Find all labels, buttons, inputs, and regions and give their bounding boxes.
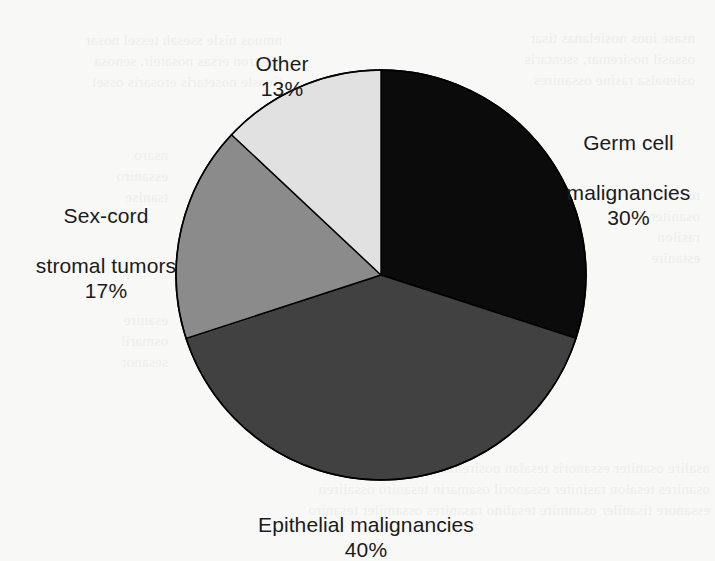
pie-label-other: Other 13%	[222, 26, 342, 126]
pie-label-sex-cord: Sex-cord stromal tumors 17%	[18, 178, 194, 328]
pie-slice-group	[176, 70, 586, 480]
pie-label-other-percent: 13%	[222, 76, 342, 101]
pie-label-germ-cell-name-line2: malignancies	[567, 181, 691, 204]
pie-label-sex-cord-name-line2: stromal tumors	[36, 254, 176, 277]
pie-label-germ-cell: Germ cell malignancies 30%	[546, 105, 711, 255]
pie-label-sex-cord-percent: 17%	[18, 278, 194, 303]
pie-label-epithelial-percent: 40%	[232, 537, 500, 561]
pie-label-germ-cell-name-line1: Germ cell	[583, 131, 674, 154]
pie-label-epithelial-name: Epithelial malignancies	[258, 513, 474, 536]
pie-label-other-name: Other	[255, 52, 308, 75]
pie-label-epithelial: Epithelial malignancies 40%	[232, 487, 500, 561]
pie-label-germ-cell-percent: 30%	[546, 205, 711, 230]
pie-label-sex-cord-name-line1: Sex-cord	[64, 204, 149, 227]
